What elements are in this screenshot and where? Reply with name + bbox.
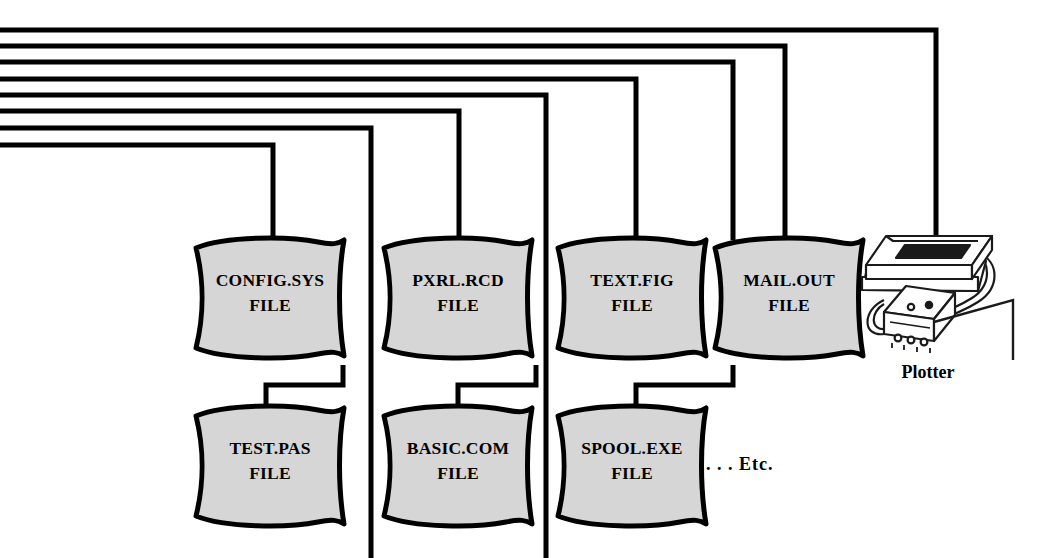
document-spool-exe[interactable]: SPOOL.EXE FILE [558, 406, 706, 526]
document-label-suffix: FILE [611, 463, 653, 483]
document-label-name: CONFIG.SYS [216, 270, 324, 290]
document-label-name: SPOOL.EXE [581, 438, 682, 458]
document-test-pas[interactable]: TEST.PAS FILE [196, 406, 344, 526]
row-connectors [266, 365, 733, 408]
file-tree-diagram: CONFIG.SYS FILE PXRL.RCD FILE TEXT.FIG F… [0, 0, 1053, 558]
document-config-sys[interactable]: CONFIG.SYS FILE [196, 238, 344, 358]
documents-row-top: CONFIG.SYS FILE PXRL.RCD FILE TEXT.FIG F… [196, 238, 863, 358]
bus-line-pxrl-rcd [0, 79, 636, 240]
document-text-fig[interactable]: TEXT.FIG FILE [558, 238, 706, 358]
document-label-name: TEXT.FIG [590, 270, 674, 290]
document-label-name: TEST.PAS [229, 438, 310, 458]
plotter-label: Plotter [902, 362, 955, 382]
documents-row-bottom: TEST.PAS FILE BASIC.COM FILE SPOOL.EXE F… [196, 406, 706, 526]
document-mail-out[interactable]: MAIL.OUT FILE [715, 238, 863, 358]
plotter-body-icon [862, 236, 992, 291]
document-basic-com[interactable]: BASIC.COM FILE [384, 406, 532, 526]
diagram-canvas: CONFIG.SYS FILE PXRL.RCD FILE TEXT.FIG F… [0, 0, 1053, 558]
document-label-name: BASIC.COM [407, 438, 510, 458]
connector-pxrl-to-basic [458, 365, 536, 408]
document-label-suffix: FILE [611, 295, 653, 315]
bus-line-text-fig [0, 62, 733, 240]
document-pxrl-rcd[interactable]: PXRL.RCD FILE [384, 238, 532, 358]
bus-line-branch-8 [0, 145, 273, 240]
document-label-suffix: FILE [249, 295, 291, 315]
connector-text-to-spool [636, 365, 733, 408]
document-label-suffix: FILE [437, 295, 479, 315]
plotter-illustration[interactable]: Plotter [862, 236, 1013, 382]
document-label-name: MAIL.OUT [743, 270, 835, 290]
etc-label: . . . Etc. [706, 454, 774, 474]
connector-config-to-test [266, 365, 343, 408]
document-label-name: PXRL.RCD [412, 270, 504, 290]
document-label-suffix: FILE [249, 463, 291, 483]
document-label-suffix: FILE [768, 295, 810, 315]
document-label-suffix: FILE [437, 463, 479, 483]
